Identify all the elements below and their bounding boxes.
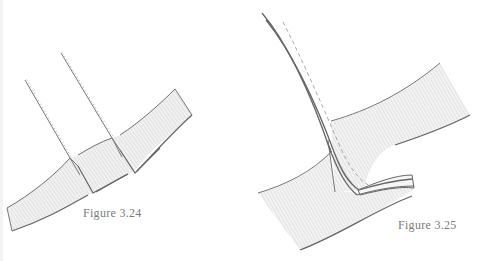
figure-caption-3-24: Figure 3.24 [83,206,142,221]
figure-caption-3-25: Figure 3.25 [398,218,457,233]
upper-band-325 [331,63,470,192]
figure-3-24-drawing [7,53,192,232]
figure-3-25-drawing [258,13,470,250]
page: Figure 3.24 Figure 3.25 [0,0,494,261]
